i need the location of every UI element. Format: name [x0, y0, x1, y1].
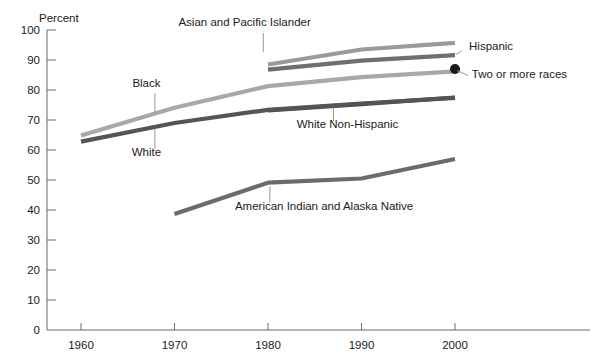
y-tick-label: 30 [27, 234, 40, 246]
x-tick-label: 1960 [68, 339, 94, 351]
series-label-black: Black [132, 77, 160, 89]
series-point-marker [450, 64, 460, 74]
x-tick-label: 1980 [255, 339, 281, 351]
y-tick-label: 50 [27, 174, 40, 186]
annotation-leader-line [456, 51, 462, 54]
x-tick-label: 1990 [349, 339, 375, 351]
x-tick-label: 1970 [162, 339, 188, 351]
chart-series-lines [81, 43, 460, 214]
series-label-american-indian-and-alaska-native: American Indian and Alaska Native [235, 200, 413, 212]
series-label-hispanic: Hispanic [469, 40, 513, 52]
line-chart: 0102030405060708090100 19601970198019902… [0, 0, 606, 363]
series-line [268, 55, 455, 69]
y-tick-label: 20 [27, 264, 40, 276]
series-annotation-labels: Asian and Pacific IslanderHispanicBlackT… [132, 16, 568, 213]
annotation-leader-line [457, 71, 468, 76]
y-tick-label: 0 [34, 324, 40, 336]
series-label-white: White [132, 146, 161, 158]
y-axis-title: Percent [39, 12, 79, 24]
y-tick-label: 40 [27, 204, 40, 216]
series-label-two-or-more-races: Two or more races [472, 68, 567, 80]
series-label-asian-and-pacific-islander: Asian and Pacific Islander [178, 16, 310, 28]
y-tick-label: 10 [27, 294, 40, 306]
chart-container: 0102030405060708090100 19601970198019902… [0, 0, 606, 363]
y-tick-label: 60 [27, 144, 40, 156]
x-tick-label: 2000 [442, 339, 468, 351]
y-axis-tick-labels: 0102030405060708090100 [21, 24, 40, 336]
y-tick-label: 70 [27, 114, 40, 126]
x-axis-tick-labels: 19601970198019902000 [68, 339, 468, 351]
y-tick-label: 80 [27, 84, 40, 96]
y-tick-label: 90 [27, 54, 40, 66]
y-tick-label: 100 [21, 24, 40, 36]
series-label-white-non-hispanic: White Non-Hispanic [297, 118, 399, 130]
